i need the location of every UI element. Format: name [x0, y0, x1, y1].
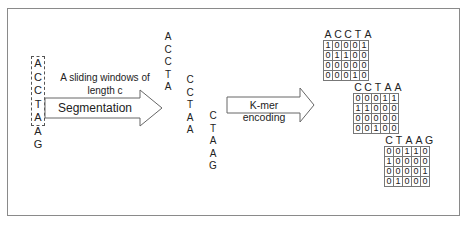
kmer-matrix-3: CTAAG 00110 10000 00001 01000 — [384, 134, 434, 187]
kmer-matrix-1: ACCTA 10001 01100 00000 00010 — [323, 28, 373, 81]
kmer-encoding-label: K-mer encoding — [228, 99, 300, 123]
segment-2: CCTAA — [184, 74, 196, 137]
segmentation-label: Segmentation — [50, 101, 140, 115]
segment-1: ACCTA — [162, 31, 174, 94]
segment-3: CTAAG — [207, 110, 219, 173]
kmer-matrix-2: CCTAA 00011 11000 00000 00100 — [353, 81, 403, 134]
